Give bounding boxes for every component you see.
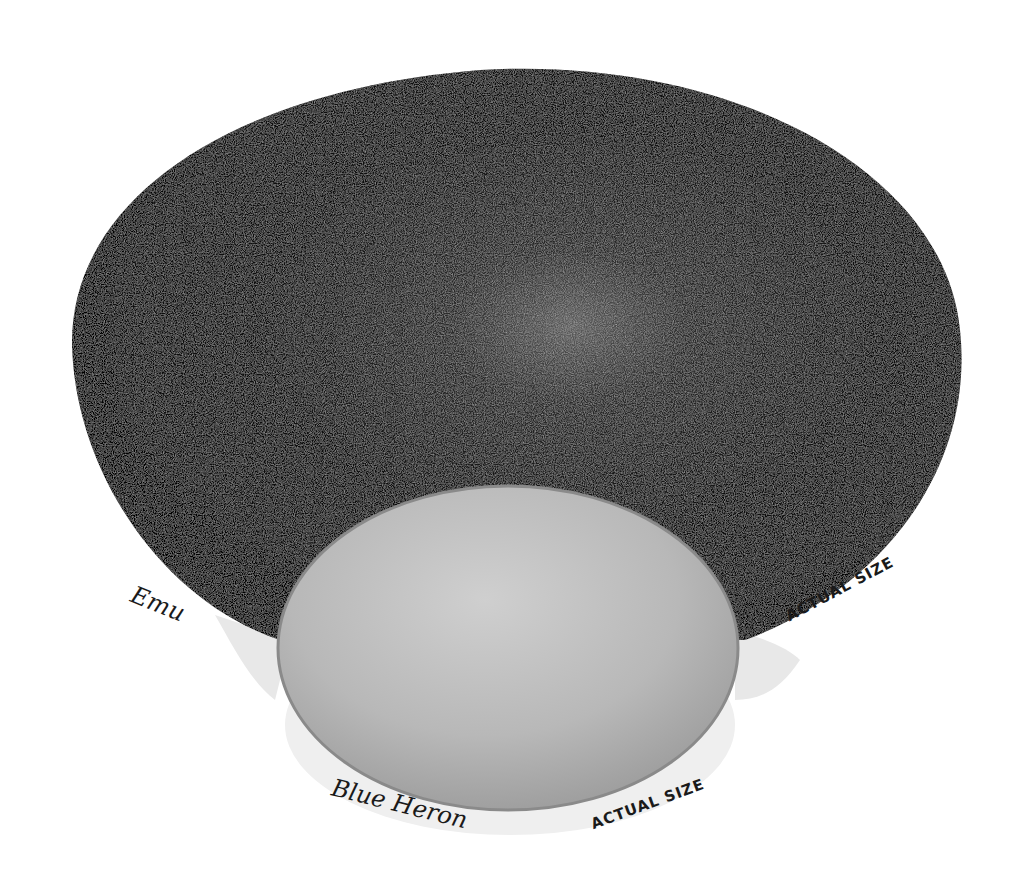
egg-illustration: Emu ACTUAL SIZE Blue Heron ACTUAL SIZE (0, 0, 1018, 881)
blue-heron-egg (278, 486, 738, 810)
emu-egg-shadow-right (735, 630, 800, 700)
egg-drawing (0, 0, 1018, 881)
